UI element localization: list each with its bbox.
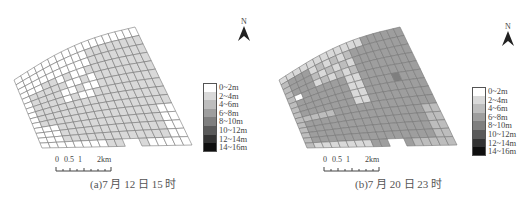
legend-item: 14~16m [203, 143, 247, 152]
scale-bar-a: 0 0.5 1 2km [55, 155, 135, 174]
north-arrow: N [501, 23, 515, 49]
legend-swatch [472, 96, 486, 105]
north-arrow: N [237, 18, 251, 44]
scale-tick-label: 2km [97, 155, 111, 164]
legend-swatch [472, 104, 486, 113]
legend-swatch [203, 135, 217, 144]
legend-swatch [203, 83, 217, 92]
scale-tick-label: 0.5 [64, 155, 74, 164]
legend-swatch [203, 100, 217, 109]
scale-tick-label: 0.5 [332, 155, 342, 164]
legend-swatch [203, 143, 217, 152]
legend-swatch [472, 130, 486, 139]
scale-tick-label: 1 [78, 155, 82, 164]
map-panel-b: N 0~2m2~4m4~6m6~8m8~10m10~12m12~14m14~16… [265, 0, 529, 197]
legend-swatch [203, 117, 217, 126]
scale-bar-b: 0 0.5 1 2km [323, 155, 403, 174]
legend-item: 14~16m [472, 147, 516, 156]
scale-tick-label: 1 [346, 155, 350, 164]
north-label: N [237, 18, 251, 26]
north-arrow-icon [501, 31, 515, 47]
figure-caption-a: (a)7 月 12 日 15 时 [90, 175, 176, 191]
map-panel-a: N 0~2m2~4m4~6m6~8m8~10m10~12m12~14m14~16… [0, 0, 264, 197]
scale-tick-label: 0 [55, 155, 59, 164]
legend-swatch [472, 113, 486, 122]
legend-a: 0~2m2~4m4~6m6~8m8~10m10~12m12~14m14~16m [203, 83, 247, 152]
legend-b: 0~2m2~4m4~6m6~8m8~10m10~12m12~14m14~16m [472, 87, 516, 156]
north-arrow-icon [237, 26, 251, 42]
legend-label: 14~16m [219, 143, 247, 152]
legend-swatch [472, 121, 486, 130]
legend-swatch [472, 87, 486, 96]
flood-depth-grid-map-b [265, 0, 465, 160]
north-label: N [501, 23, 515, 31]
legend-label: 14~16m [488, 147, 516, 156]
scale-bar-icon [55, 167, 115, 172]
scale-bar-icon [323, 167, 383, 172]
legend-swatch [203, 92, 217, 101]
flood-depth-grid-map-a [0, 0, 200, 160]
figure-caption-b: (b)7 月 20 日 23 时 [355, 175, 442, 191]
legend-swatch [472, 139, 486, 148]
scale-tick-label: 0 [323, 155, 327, 164]
legend-swatch [203, 109, 217, 118]
legend-swatch [203, 126, 217, 135]
scale-tick-label: 2km [365, 155, 379, 164]
legend-swatch [472, 147, 486, 156]
